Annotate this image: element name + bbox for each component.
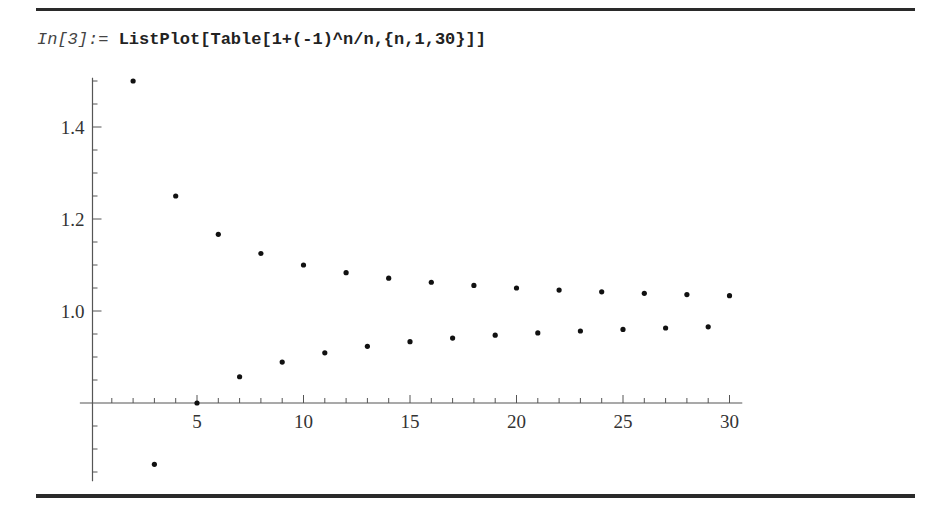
- data-point: [237, 374, 242, 379]
- x-tick-label: 15: [401, 411, 420, 432]
- data-point: [301, 262, 306, 267]
- data-point: [344, 270, 349, 275]
- data-point: [578, 328, 583, 333]
- data-point: [386, 276, 391, 281]
- data-point: [535, 330, 540, 335]
- x-tick-label: 10: [294, 411, 313, 432]
- data-point: [642, 291, 647, 296]
- x-tick-label: 20: [507, 411, 526, 432]
- data-point: [152, 462, 157, 467]
- data-point: [407, 339, 412, 344]
- data-point: [557, 287, 562, 292]
- data-point: [599, 289, 604, 294]
- data-point: [493, 333, 498, 338]
- y-tick-label: 1.0: [61, 301, 85, 322]
- data-point: [280, 360, 285, 365]
- y-tick-label: 1.2: [61, 209, 85, 230]
- data-point: [258, 251, 263, 256]
- x-tick-label: 25: [614, 411, 633, 432]
- x-tick-label: 30: [720, 411, 739, 432]
- data-point: [450, 335, 455, 340]
- data-point: [131, 78, 136, 83]
- data-point: [471, 283, 476, 288]
- list-plot: 510152025301.01.21.4: [0, 0, 949, 521]
- data-point: [429, 280, 434, 285]
- x-tick-label: 5: [192, 411, 202, 432]
- cell-bottom-rule: [36, 494, 915, 498]
- plot-points: [131, 78, 733, 467]
- data-point: [514, 285, 519, 290]
- data-point: [706, 324, 711, 329]
- y-tick-label: 1.4: [61, 117, 85, 138]
- data-point: [684, 292, 689, 297]
- data-point: [173, 193, 178, 198]
- plot-tick-labels: 510152025301.01.21.4: [61, 117, 739, 432]
- data-point: [663, 325, 668, 330]
- data-point: [727, 293, 732, 298]
- data-point: [216, 232, 221, 237]
- data-point: [322, 350, 327, 355]
- data-point: [194, 400, 199, 405]
- data-point: [620, 327, 625, 332]
- data-point: [365, 344, 370, 349]
